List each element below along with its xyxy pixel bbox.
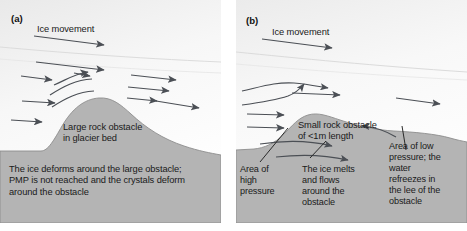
glacier-obstacle-figure: (a) Ice movement Large rock obstacle in … [0, 0, 467, 231]
panel-a: (a) Ice movement Large rock obstacle in … [0, 0, 221, 223]
ice-movement-label-a: Ice movement [37, 24, 94, 35]
annotation-melt-flow: The ice melts and flows around the obsta… [302, 164, 355, 208]
annotation-low-pressure: Area of low pressure; the water refreeze… [389, 141, 441, 208]
panel-b-label: (b) [246, 15, 258, 26]
panel-a-caption: The ice deforms around the large obstacl… [9, 164, 185, 198]
ice-movement-label-b: Ice movement [272, 27, 329, 38]
small-obstacle-label: Small rock obstacle of <1m length [298, 120, 377, 143]
panel-b: (b) Ice movement Small rock obstacle of … [236, 0, 467, 223]
large-obstacle-label: Large rock obstacle in glacier bed [63, 122, 142, 145]
panel-a-label: (a) [11, 13, 23, 24]
annotation-high-pressure: Area of high pressure [240, 164, 275, 197]
